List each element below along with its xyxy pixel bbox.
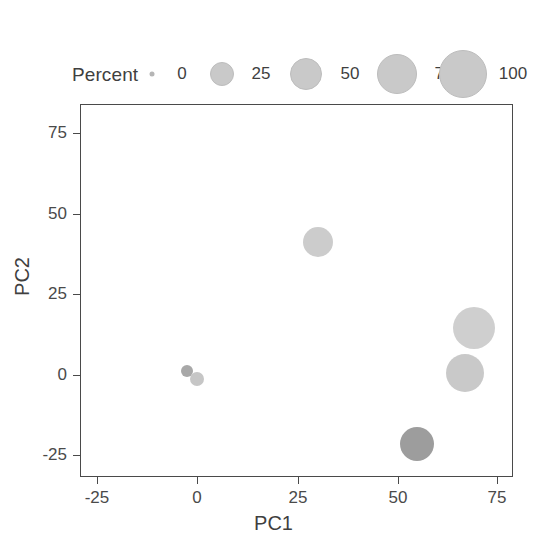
y-tick-label: 25 [48, 284, 67, 304]
legend-size-key [210, 62, 234, 86]
y-axis-label: PC2 [11, 167, 34, 387]
legend-size-label: 25 [252, 64, 271, 84]
data-point-bubble [400, 427, 434, 461]
x-tick-mark [398, 477, 399, 484]
x-tick-label: 25 [289, 488, 308, 508]
y-tick-label: 75 [48, 123, 67, 143]
x-tick-mark [197, 477, 198, 484]
legend-size-key [377, 54, 417, 94]
x-tick-label: 0 [192, 488, 201, 508]
x-tick-mark [97, 477, 98, 484]
x-tick-mark [298, 477, 299, 484]
legend-title: Percent [72, 64, 138, 86]
y-tick-mark [73, 455, 80, 456]
y-tick-mark [73, 133, 80, 134]
x-tick-mark [497, 477, 498, 484]
plot-panel [80, 104, 513, 477]
legend-size-label: 0 [177, 64, 186, 84]
y-tick-label: 50 [48, 204, 67, 224]
bubble-chart-figure: Percent 0255075100 7550250-25-250255075 … [0, 0, 547, 548]
x-axis-label: PC1 [0, 512, 547, 535]
x-tick-label: -25 [85, 488, 110, 508]
x-tick-label: 50 [389, 488, 408, 508]
y-tick-mark [73, 294, 80, 295]
data-point-bubble [446, 354, 484, 392]
data-point-bubble [303, 227, 333, 257]
x-tick-label: 75 [488, 488, 507, 508]
y-tick-label: -25 [42, 445, 67, 465]
legend-size-key [290, 58, 322, 90]
y-tick-mark [73, 214, 80, 215]
legend-size-label: 50 [341, 64, 360, 84]
legend-size-label: 100 [499, 64, 527, 84]
y-tick-mark [73, 375, 80, 376]
size-legend: Percent 0255075100 [0, 28, 547, 88]
data-point-bubble [453, 307, 495, 349]
legend-size-key [150, 72, 155, 77]
legend-size-key [439, 50, 487, 98]
data-point-bubble [190, 372, 204, 386]
y-tick-label: 0 [58, 365, 67, 385]
